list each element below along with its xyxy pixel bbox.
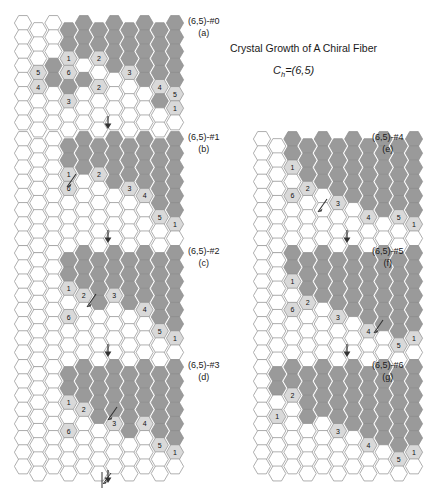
hex-cell <box>166 302 183 317</box>
hex-cell <box>253 431 270 446</box>
hex-cell <box>253 331 270 346</box>
hex-cell <box>329 139 346 154</box>
hex-cell <box>106 16 123 31</box>
hex-cell <box>314 302 331 317</box>
hex-cell <box>121 108 138 123</box>
hex-cell <box>284 402 301 417</box>
hex-number-label: 5 <box>397 456 401 463</box>
hex-cell <box>269 338 286 353</box>
hex-cell <box>269 267 286 282</box>
hex-cell <box>121 438 138 453</box>
hex-cell <box>151 395 168 410</box>
hex-cell <box>106 431 123 446</box>
hex-cell <box>14 160 31 175</box>
hex-cell <box>121 224 138 239</box>
panel-a-sublabel: (a) <box>188 28 220 38</box>
hex-cell <box>329 438 346 453</box>
hex-cell <box>30 153 47 168</box>
hex-cell <box>405 188 422 203</box>
hex-cell <box>14 459 31 474</box>
hex-cell <box>14 388 31 403</box>
hex-cell <box>299 139 316 154</box>
hex-cell <box>151 309 168 324</box>
hex-cell <box>345 402 362 417</box>
hex-cell <box>14 431 31 446</box>
hex-cell <box>405 317 422 332</box>
hex-cell <box>136 288 153 303</box>
hex-cell <box>360 195 377 210</box>
hex-cell <box>405 160 422 175</box>
hex-cell <box>269 181 286 196</box>
hex-number-label: 6 <box>67 314 71 321</box>
hex-cell <box>136 72 153 87</box>
hex-cell <box>75 30 92 45</box>
hex-cell <box>60 224 77 239</box>
hex-cell <box>60 37 77 52</box>
hex-cell <box>60 153 77 168</box>
hex-cell <box>314 174 331 189</box>
hex-cell <box>253 416 270 431</box>
hex-cell <box>14 115 31 130</box>
panel-e-sublabel: (e) <box>372 144 404 154</box>
flow-c-d-icon <box>102 344 116 358</box>
hex-cell <box>30 423 47 438</box>
panel-d-caption: (6,5)-#3(d) <box>188 360 220 382</box>
hex-cell <box>253 188 270 203</box>
hex-cell <box>106 160 123 175</box>
hex-cell <box>151 195 168 210</box>
panel-f-growth-arrow <box>369 318 391 338</box>
hex-cell <box>253 160 270 175</box>
hex-cell <box>284 260 301 275</box>
hex-cell <box>269 438 286 453</box>
flow-b-c-icon <box>102 230 116 244</box>
hex-cell <box>360 338 377 353</box>
hex-cell <box>14 260 31 275</box>
hex-cell <box>30 309 47 324</box>
hex-cell <box>45 274 62 289</box>
hex-cell <box>45 115 62 130</box>
panel-g-caption: (6,5)-#6(g) <box>372 360 404 382</box>
hex-cell <box>314 160 331 175</box>
hex-cell <box>90 65 107 80</box>
panel-b-id: (6,5)-#1 <box>188 132 220 142</box>
hex-cell <box>151 423 168 438</box>
hex-cell <box>405 360 422 375</box>
hex-cell <box>299 167 316 182</box>
hex-cell <box>136 246 153 261</box>
hex-cell <box>45 72 62 87</box>
hex-cell <box>136 317 153 332</box>
figure-title: Crystal Growth of A Chiral Fiber <box>230 42 377 54</box>
hex-cell <box>90 324 107 339</box>
hex-cell <box>136 274 153 289</box>
hex-cell <box>360 181 377 196</box>
hex-cell <box>314 459 331 474</box>
hex-cell <box>30 452 47 467</box>
panel-f-sublabel: (f) <box>372 258 404 268</box>
hex-cell <box>299 367 316 382</box>
panel-e-growth-arrow <box>313 197 335 217</box>
hex-cell <box>284 431 301 446</box>
hex-cell <box>314 288 331 303</box>
hex-cell <box>166 188 183 203</box>
hex-cell <box>299 466 316 481</box>
hex-cell <box>30 94 47 109</box>
hex-cell <box>75 203 92 218</box>
hex-number-label: 3 <box>127 69 131 76</box>
hex-cell <box>106 274 123 289</box>
panel-c-sublabel: (c) <box>188 258 220 268</box>
hex-cell <box>166 16 183 31</box>
hex-cell <box>136 146 153 161</box>
hex-cell <box>136 16 153 31</box>
hex-cell <box>345 146 362 161</box>
hex-cell <box>75 101 92 116</box>
hex-cell <box>375 217 392 232</box>
hex-cell <box>314 331 331 346</box>
hex-number-label: 5 <box>158 328 162 335</box>
hex-cell <box>30 253 47 268</box>
hex-cell <box>166 416 183 431</box>
hex-cell <box>166 288 183 303</box>
hex-cell <box>14 30 31 45</box>
hex-cell <box>166 72 183 87</box>
hex-number-label: 3 <box>336 200 340 207</box>
hex-cell <box>14 317 31 332</box>
